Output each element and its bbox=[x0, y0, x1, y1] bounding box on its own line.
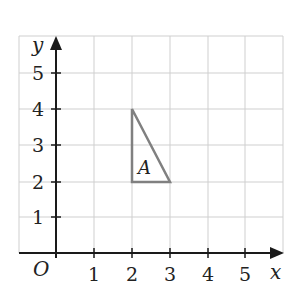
y-tick-label-5: 5 bbox=[32, 62, 44, 84]
y-axis-label: y bbox=[31, 33, 44, 57]
axes bbox=[19, 48, 272, 258]
x-tick-label-1: 1 bbox=[88, 263, 100, 285]
x-tick-label-5: 5 bbox=[239, 263, 251, 285]
y-tick-label-2: 2 bbox=[32, 171, 44, 193]
origin-label: O bbox=[33, 257, 49, 281]
triangle-a-label: A bbox=[136, 157, 151, 178]
y-tick-label-4: 4 bbox=[32, 98, 44, 120]
x-axis-label: x bbox=[270, 260, 281, 284]
y-axis-arrow-icon bbox=[50, 36, 62, 50]
coordinate-grid-diagram: 1 2 3 4 5 1 2 3 4 5 x y O A bbox=[0, 0, 300, 297]
x-axis-arrow-icon bbox=[270, 247, 284, 259]
y-tick-label-3: 3 bbox=[32, 134, 44, 156]
x-tick-label-3: 3 bbox=[164, 263, 176, 285]
x-tick-label-4: 4 bbox=[202, 263, 214, 285]
x-tick-label-2: 2 bbox=[126, 263, 138, 285]
y-tick-label-1: 1 bbox=[32, 206, 44, 228]
